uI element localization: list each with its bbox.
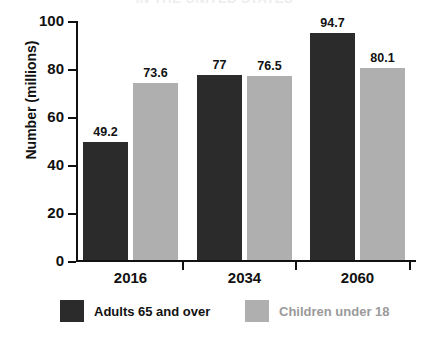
legend-item[interactable]: Adults 65 and over — [60, 298, 210, 324]
y-tick-label: 80 — [47, 60, 64, 77]
y-tick-label: 100 — [39, 12, 64, 29]
x-tick-mark — [409, 262, 411, 270]
bar: 76.5 — [247, 76, 292, 260]
bar-value-label: 76.5 — [257, 59, 281, 73]
legend-label: Children under 18 — [279, 304, 390, 319]
y-tick-mark — [68, 69, 76, 71]
y-tick-mark — [68, 21, 76, 23]
bar-value-label: 49.2 — [93, 125, 117, 139]
bar: 77 — [197, 75, 242, 260]
bar: 94.7 — [310, 33, 355, 260]
chart-title: IN THE UNITED STATES — [0, 0, 429, 5]
y-tick-mark — [68, 165, 76, 167]
legend-item[interactable]: Children under 18 — [245, 298, 390, 324]
x-tick-label: 2034 — [205, 269, 285, 286]
bar: 49.2 — [83, 142, 128, 260]
chart-canvas: IN THE UNITED STATES Number (millions) 0… — [0, 0, 429, 337]
legend-label: Adults 65 and over — [94, 304, 210, 319]
y-tick-label: 20 — [47, 204, 64, 221]
y-axis-line — [76, 21, 78, 262]
y-tick-mark — [68, 261, 76, 263]
bar: 73.6 — [133, 83, 178, 260]
bar-value-label: 80.1 — [370, 51, 394, 65]
chart-legend: Adults 65 and overChildren under 18 — [0, 298, 429, 324]
y-tick-label: 40 — [47, 156, 64, 173]
x-tick-mark — [182, 262, 184, 270]
y-tick-label: 60 — [47, 108, 64, 125]
legend-swatch — [60, 300, 84, 322]
y-tick-mark — [68, 213, 76, 215]
y-tick-label: 0 — [56, 252, 64, 269]
bar-value-label: 73.6 — [143, 66, 167, 80]
y-tick-mark — [68, 117, 76, 119]
bar-value-label: 77 — [213, 58, 227, 72]
bar: 80.1 — [360, 68, 405, 260]
x-axis-line — [76, 260, 416, 262]
plot-area: 020406080100 49.27794.773.676.580.1 2016… — [76, 21, 416, 261]
y-axis-title: Number (millions) — [23, 5, 39, 195]
legend-swatch — [245, 300, 269, 322]
x-tick-mark — [295, 262, 297, 270]
bar-value-label: 94.7 — [320, 16, 344, 30]
x-tick-label: 2060 — [318, 269, 398, 286]
x-tick-label: 2016 — [91, 269, 171, 286]
